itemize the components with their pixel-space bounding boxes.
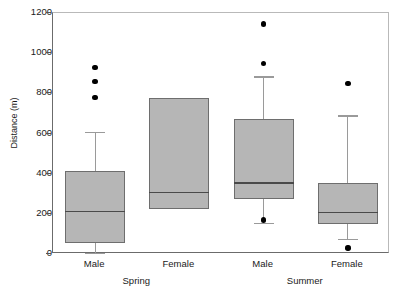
x-tick-label-spring-female: Female [163, 258, 195, 269]
season-label-spring: Spring [123, 275, 150, 286]
whisker-cap-upper [254, 76, 274, 77]
whisker-cap-lower [85, 253, 105, 254]
y-tick-mark [46, 133, 51, 134]
x-tick-label-summer-female: Female [331, 258, 363, 269]
y-tick-mark [46, 52, 51, 53]
whisker-cap-upper [85, 132, 105, 133]
y-tick-0: 0 [12, 248, 52, 249]
season-label-summer: Summer [287, 275, 323, 286]
y-tick-400: 400 [12, 168, 52, 169]
plot-area [52, 12, 389, 253]
box [318, 183, 378, 224]
y-tick-mark [46, 173, 51, 174]
whisker-cap-lower [254, 223, 274, 224]
y-tick-600: 600 [12, 128, 52, 129]
outlier-point [345, 81, 350, 86]
box [234, 119, 294, 199]
y-tick-1000: 1000 [12, 47, 52, 48]
whisker-upper [263, 76, 264, 119]
outlier-point [92, 65, 97, 70]
median-line [149, 192, 209, 194]
whisker-upper [95, 132, 96, 171]
y-tick-200: 200 [12, 208, 52, 209]
whisker-cap-lower [338, 239, 358, 240]
y-tick-1200: 1200 [12, 7, 52, 8]
median-line [65, 211, 125, 213]
y-tick-mark [46, 12, 51, 13]
median-line [318, 212, 378, 214]
whisker-lower [347, 224, 348, 239]
x-tick-label-summer-male: Male [252, 258, 273, 269]
outlier-point [261, 21, 266, 26]
median-line [234, 182, 294, 184]
x-tick-label-spring-male: Male [84, 258, 105, 269]
box-plot-figure: Distance (m) 020040060080010001200 MaleF… [0, 0, 401, 297]
box [65, 171, 125, 243]
whisker-lower [95, 243, 96, 253]
whisker-cap-upper [338, 115, 358, 116]
y-tick-mark [46, 253, 51, 254]
y-tick-mark [46, 92, 51, 93]
outlier-point [345, 245, 350, 250]
outlier-point [261, 61, 266, 66]
outlier-point [92, 95, 97, 100]
y-tick-800: 800 [12, 87, 52, 88]
y-tick-mark [46, 213, 51, 214]
outlier-point [261, 217, 266, 222]
whisker-upper [347, 115, 348, 182]
outlier-point [92, 79, 97, 84]
